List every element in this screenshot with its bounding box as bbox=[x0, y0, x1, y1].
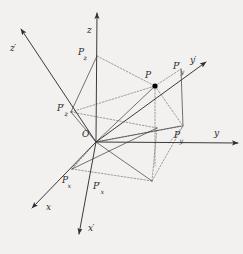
y-axis bbox=[96, 142, 238, 143]
projection-label-py: Py bbox=[174, 131, 184, 140]
origin-to-lower-a bbox=[96, 142, 152, 181]
z-axis bbox=[96, 13, 97, 142]
point-p-marker bbox=[152, 83, 157, 88]
point-marker-layer bbox=[152, 83, 157, 88]
lower-box-right bbox=[152, 128, 157, 181]
projection-label-px-prime: P′x bbox=[93, 182, 105, 191]
lower-box-bottom bbox=[72, 169, 152, 181]
point-p-label: P bbox=[145, 71, 151, 80]
projection-solid-lines bbox=[71, 56, 183, 181]
projection-label-pz: Pz bbox=[78, 48, 88, 57]
p-box-right bbox=[155, 86, 183, 126]
x-axis-label: x bbox=[46, 203, 51, 212]
y-axis-label: y bbox=[214, 129, 219, 138]
coordinate-system-diagram: OPzyxz′y′x′PzP′zPyP′yPxP′x bbox=[0, 0, 243, 254]
pz-to-pzprime bbox=[71, 56, 97, 112]
origin-to-lower-b bbox=[96, 126, 181, 142]
z-axis-label: z bbox=[87, 26, 92, 35]
axis-lines bbox=[21, 13, 238, 234]
upper-left-connect bbox=[71, 112, 157, 128]
y-prime-axis-label: y′ bbox=[190, 56, 197, 65]
origin-label: O bbox=[82, 130, 89, 139]
z-prime-axis bbox=[21, 29, 96, 142]
z-prime-axis-label: z′ bbox=[10, 44, 17, 53]
projection-construction-lines bbox=[71, 56, 183, 181]
projection-label-py-prime: P′y bbox=[173, 62, 185, 71]
diagram-canvas bbox=[0, 0, 243, 254]
x-prime-axis-label: x′ bbox=[88, 224, 95, 233]
projection-label-pz-prime: P′z bbox=[57, 104, 68, 113]
pyprime-drop bbox=[181, 69, 183, 126]
projection-label-px: Px bbox=[62, 176, 72, 185]
